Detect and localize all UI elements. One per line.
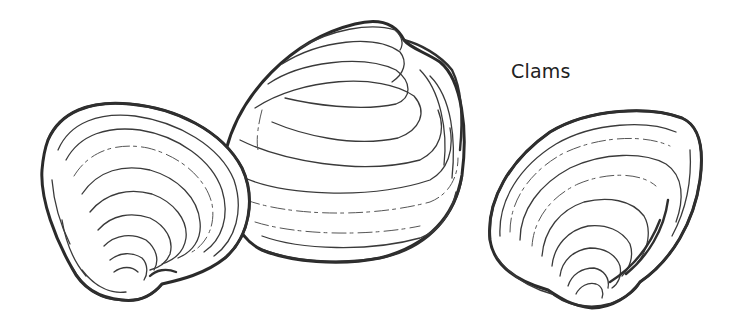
center-clam-shell (225, 21, 464, 262)
left-clam-shell (42, 103, 250, 300)
clam-drawings (0, 0, 746, 335)
right-clam-shell (490, 111, 702, 308)
clams-illustration: Clams (0, 0, 746, 335)
illustration-caption: Clams (511, 60, 571, 82)
